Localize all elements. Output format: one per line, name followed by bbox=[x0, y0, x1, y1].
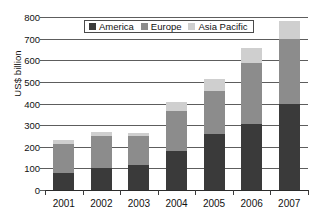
y-tick-label-600: 600 bbox=[24, 55, 40, 66]
x-tick-label-2001: 2001 bbox=[53, 198, 75, 209]
legend-label: Europe bbox=[151, 22, 182, 32]
legend-label: Asia Pacific bbox=[198, 22, 247, 32]
x-tick-mark-2001 bbox=[83, 190, 84, 195]
y-tick-label-400: 400 bbox=[24, 98, 40, 109]
y-tick-label-0: 0 bbox=[35, 185, 40, 196]
bar-segment-europe-2003[interactable] bbox=[128, 136, 149, 165]
y-tick-label-300: 300 bbox=[24, 120, 40, 131]
bar-segment-america-2006[interactable] bbox=[241, 124, 262, 190]
bar-segment-america-2002[interactable] bbox=[91, 168, 112, 190]
x-tick-mark-origin bbox=[45, 190, 46, 195]
bar-segment-america-2003[interactable] bbox=[128, 165, 149, 190]
bar-segment-europe-2001[interactable] bbox=[53, 144, 74, 173]
y-axis-title: US$ billion bbox=[12, 19, 23, 129]
x-tick-label-2006: 2006 bbox=[241, 198, 263, 209]
x-tick-mark-2007 bbox=[308, 190, 309, 195]
bar-group-2006[interactable] bbox=[241, 17, 262, 190]
y-tick-label-500: 500 bbox=[24, 76, 40, 87]
legend-item-europe[interactable]: Europe bbox=[141, 22, 182, 32]
bar-group-2002[interactable] bbox=[91, 17, 112, 190]
legend-swatch-icon-america bbox=[89, 23, 96, 30]
bar-segment-europe-2002[interactable] bbox=[91, 136, 112, 168]
bar-segment-america-2004[interactable] bbox=[166, 151, 187, 190]
bar-segment-asia-pacific-2006[interactable] bbox=[241, 48, 262, 62]
bar-segment-europe-2006[interactable] bbox=[241, 63, 262, 124]
y-tick-label-700: 700 bbox=[24, 33, 40, 44]
bar-segment-america-2005[interactable] bbox=[204, 134, 225, 190]
bar-group-2001[interactable] bbox=[53, 17, 74, 190]
y-tick-label-200: 200 bbox=[24, 141, 40, 152]
legend-item-america[interactable]: America bbox=[89, 22, 134, 32]
x-tick-label-2003: 2003 bbox=[128, 198, 150, 209]
bar-segment-asia-pacific-2003[interactable] bbox=[128, 133, 149, 137]
legend-swatch-icon-europe bbox=[141, 23, 148, 30]
legend-item-asia-pacific[interactable]: Asia Pacific bbox=[188, 22, 247, 32]
bar-segment-asia-pacific-2002[interactable] bbox=[91, 132, 112, 136]
x-tick-mark-2006 bbox=[270, 190, 271, 195]
gridline-0 bbox=[45, 190, 308, 191]
chart-legend: AmericaEuropeAsia Pacific bbox=[84, 20, 254, 33]
x-tick-mark-2005 bbox=[233, 190, 234, 195]
plot-area: 0100200300400500600700800 20012002200320… bbox=[45, 17, 308, 190]
bar-segment-asia-pacific-2004[interactable] bbox=[166, 102, 187, 111]
x-tick-mark-2002 bbox=[120, 190, 121, 195]
x-tick-label-2004: 2004 bbox=[165, 198, 187, 209]
bar-segment-asia-pacific-2005[interactable] bbox=[204, 79, 225, 90]
bar-group-2004[interactable] bbox=[166, 17, 187, 190]
bar-segment-asia-pacific-2007[interactable] bbox=[279, 21, 300, 38]
legend-label: America bbox=[99, 22, 134, 32]
bar-segment-europe-2007[interactable] bbox=[279, 39, 300, 104]
y-tick-label-100: 100 bbox=[24, 163, 40, 174]
x-tick-mark-2003 bbox=[158, 190, 159, 195]
y-tick-label-800: 800 bbox=[24, 12, 40, 23]
bar-segment-america-2007[interactable] bbox=[279, 104, 300, 190]
bar-series-container bbox=[45, 17, 308, 190]
x-tick-label-2007: 2007 bbox=[278, 198, 300, 209]
x-tick-label-2005: 2005 bbox=[203, 198, 225, 209]
bar-segment-america-2001[interactable] bbox=[53, 173, 74, 190]
x-tick-label-2002: 2002 bbox=[90, 198, 112, 209]
stacked-bar-chart: US$ billion 0100200300400500600700800 20… bbox=[0, 0, 319, 223]
bar-segment-europe-2005[interactable] bbox=[204, 91, 225, 135]
bar-segment-europe-2004[interactable] bbox=[166, 111, 187, 151]
bar-segment-asia-pacific-2001[interactable] bbox=[53, 140, 74, 144]
x-tick-mark-2004 bbox=[195, 190, 196, 195]
bar-group-2005[interactable] bbox=[204, 17, 225, 190]
bar-group-2007[interactable] bbox=[279, 17, 300, 190]
legend-swatch-icon-asia-pacific bbox=[188, 23, 195, 30]
bar-group-2003[interactable] bbox=[128, 17, 149, 190]
